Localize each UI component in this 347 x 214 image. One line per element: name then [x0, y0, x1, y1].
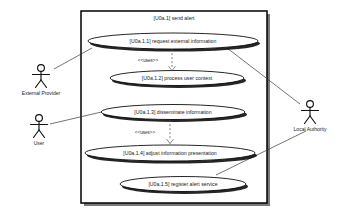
actor-external-provider-leg-left — [36, 80, 42, 88]
use-case-diagram-canvas: [U0a.1] send alert [U0a.1.1] request ext… — [0, 0, 347, 214]
use-case-uc-3-label: [U0a.1.3] disseminate information — [134, 109, 211, 115]
use-case-uc-5-label: [U0a.1.5] register alert service — [148, 181, 217, 187]
actor-external-provider[interactable]: External Provider — [22, 65, 61, 96]
uses-stereotype-label-1: <<uses>> — [138, 58, 159, 63]
actor-local-authority-head-icon — [307, 101, 314, 108]
use-case-uc-1[interactable]: [U0a.1.1] request external information — [88, 33, 260, 52]
use-case-uc-4[interactable]: [U0a.1.4] adjust information presentatio… — [85, 145, 257, 164]
actor-external-provider-head-icon — [38, 65, 45, 72]
use-case-uc-1-label: [U0a.1.1] request external information — [130, 38, 217, 44]
actor-local-authority[interactable]: Local Authority — [294, 101, 327, 132]
actor-user[interactable]: User — [31, 115, 48, 146]
actor-local-authority-leg-left — [305, 116, 311, 124]
use-case-uc-4-label: [U0a.1.4] adjust information presentatio… — [123, 150, 217, 156]
system-boundary-title: [U0a.1] send alert — [154, 15, 196, 21]
actor-user-leg-left — [34, 130, 40, 138]
actor-user-label: User — [34, 140, 45, 146]
actor-local-authority-leg-right — [310, 116, 316, 124]
actor-user-leg-right — [39, 130, 45, 138]
uses-stereotype-label-2: <<uses>> — [135, 130, 156, 135]
diagram-surface: [U0a.1] send alert [U0a.1.1] request ext… — [0, 0, 347, 214]
actor-user-head-icon — [36, 115, 43, 122]
actor-local-authority-label: Local Authority — [294, 126, 327, 132]
use-case-uc-3[interactable]: [U0a.1.3] disseminate information — [101, 105, 247, 122]
use-case-uc-2[interactable]: [U0a.1.2] process user context — [110, 71, 246, 88]
actor-external-provider-label: External Provider — [22, 90, 61, 96]
use-case-uc-2-label: [U0a.1.2] process user context — [142, 75, 213, 81]
actor-external-provider-leg-right — [41, 80, 47, 88]
use-case-uc-5[interactable]: [U0a.1.5] register alert service — [120, 177, 248, 194]
